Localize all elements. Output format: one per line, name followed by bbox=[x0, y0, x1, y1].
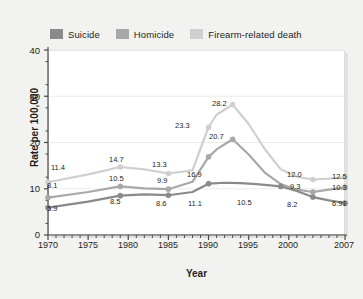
data-label-8-1: 8.1 bbox=[47, 181, 57, 190]
legend-label-homicide: Homicide bbox=[134, 29, 174, 40]
x-axis-label: Year bbox=[48, 268, 345, 279]
y-tick-40: 40 bbox=[14, 45, 40, 56]
data-label-5-9: 5.9 bbox=[47, 204, 57, 213]
data-label-23-3: 23.3 bbox=[175, 121, 190, 130]
legend-swatch-suicide bbox=[50, 29, 63, 39]
data-label-6-91: 6.91 bbox=[332, 199, 347, 208]
x-tick-1970: 1970 bbox=[31, 240, 65, 250]
data-label-12-0: 12.0 bbox=[287, 170, 302, 179]
data-label-10-5: 10.5 bbox=[237, 198, 252, 207]
data-label-11-4: 11.4 bbox=[51, 163, 65, 172]
data-label-11-1: 11.1 bbox=[188, 199, 202, 208]
chart-legend: Suicide Homicide Firearm-related death bbox=[50, 26, 302, 42]
data-label-20-7: 20.7 bbox=[209, 132, 224, 141]
legend-entry-suicide[interactable]: Suicide bbox=[50, 29, 100, 40]
legend-label-firearm-related-death: Firearm-related death bbox=[208, 29, 301, 40]
data-label-10-3: 10.3 bbox=[332, 183, 347, 192]
legend-swatch-homicide bbox=[116, 29, 129, 39]
legend-entry-firearm-related-death[interactable]: Firearm-related death bbox=[190, 29, 301, 40]
data-label-16-9: 16.9 bbox=[187, 170, 202, 179]
data-label-14-7: 14.7 bbox=[109, 155, 124, 164]
data-label-8-2: 8.2 bbox=[287, 200, 297, 209]
legend-entry-homicide[interactable]: Homicide bbox=[116, 29, 174, 40]
x-tick-1975: 1975 bbox=[71, 240, 105, 250]
data-label-28-2: 28.2 bbox=[212, 99, 227, 108]
y-axis-label: Rate per 100,000 bbox=[29, 68, 40, 188]
x-tick-2000: 2000 bbox=[271, 240, 305, 250]
x-tick-1990: 1990 bbox=[191, 240, 225, 250]
x-tick-1980: 1980 bbox=[111, 240, 145, 250]
x-tick-2007: 2007 bbox=[327, 240, 361, 250]
y-tick-0: 0 bbox=[14, 229, 40, 240]
data-label-12-5: 12.5 bbox=[332, 172, 347, 181]
x-tick-1985: 1985 bbox=[151, 240, 185, 250]
x-tick-1995: 1995 bbox=[231, 240, 265, 250]
figure-container: Suicide Homicide Firearm-related death 4… bbox=[0, 0, 363, 299]
data-label-8-5: 8.5 bbox=[110, 197, 120, 206]
data-label-8-6: 8.6 bbox=[156, 199, 166, 208]
legend-label-suicide: Suicide bbox=[68, 29, 100, 40]
data-label-13-3: 13.3 bbox=[152, 160, 167, 169]
legend-swatch-firearm-related-death bbox=[190, 29, 203, 39]
data-label-10-5: 10.5 bbox=[109, 174, 124, 183]
data-label-9-3: 9.3 bbox=[290, 182, 300, 191]
data-label-9-9: 9.9 bbox=[157, 176, 167, 185]
